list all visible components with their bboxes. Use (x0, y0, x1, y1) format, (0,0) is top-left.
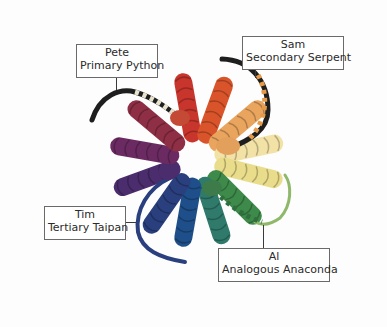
leader-line-pete (116, 78, 117, 90)
label-sam-name: Sam (246, 38, 340, 51)
leader-line-sam (255, 70, 256, 78)
label-pete-title: Primary Python (80, 59, 154, 72)
label-tim: Tim Tertiary Taipan (44, 206, 126, 240)
label-al-name: Al (222, 250, 326, 263)
illustration-canvas: Pete Primary Python Sam Secondary Serpen… (0, 0, 387, 327)
label-tim-title: Tertiary Taipan (48, 221, 122, 234)
label-al: Al Analogous Anaconda (218, 248, 330, 282)
label-sam: Sam Secondary Serpent (242, 36, 344, 70)
label-al-title: Analogous Anaconda (222, 263, 326, 276)
label-sam-title: Secondary Serpent (246, 51, 340, 64)
leader-line-al (263, 225, 264, 248)
label-tim-name: Tim (48, 208, 122, 221)
label-pete-name: Pete (80, 46, 154, 59)
label-pete: Pete Primary Python (76, 44, 158, 78)
